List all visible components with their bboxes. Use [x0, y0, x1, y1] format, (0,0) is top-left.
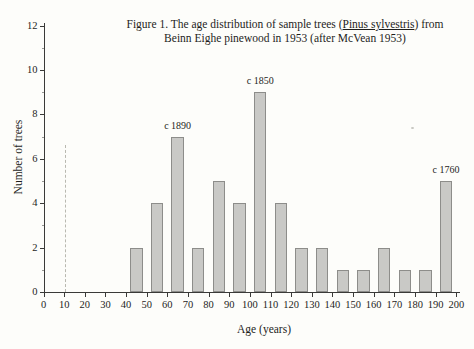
x-axis-tick: [126, 293, 127, 297]
figure-1-age-distribution-chart: Figure 1. The age distribution of sample…: [0, 0, 474, 349]
x-axis-tick: [332, 293, 333, 297]
x-axis-tick: [394, 293, 395, 297]
bar-annotation: c 1850: [232, 75, 288, 87]
bar-age-125: [295, 248, 307, 292]
bar-age-95: [233, 203, 245, 292]
chart-title-line1-prefix: Figure 1. The age distribution of sample…: [127, 18, 343, 30]
x-axis-tick: [250, 293, 251, 297]
scan-artifact-speck: [411, 127, 414, 129]
bar-age-65: [171, 137, 183, 292]
chart-title-line2: Beinn Eighe pinewood in 1953 (after McVe…: [164, 32, 406, 44]
bar-age-175: [399, 270, 411, 292]
y-axis-tick-label: 8: [17, 108, 38, 120]
bar-annotation: c 1890: [150, 120, 206, 132]
x-axis-title: Age (years): [194, 323, 334, 335]
y-axis-tick-label: 12: [17, 20, 38, 32]
x-axis-tick: [64, 293, 65, 297]
bar-age-85: [213, 181, 225, 292]
y-axis-tick: [40, 70, 44, 71]
y-axis-tick: [40, 203, 44, 204]
x-axis-tick: [353, 293, 354, 297]
y-axis-tick: [40, 114, 44, 115]
bar-age-185: [419, 270, 431, 292]
bar-age-115: [275, 203, 287, 292]
y-axis-minor-tick: [42, 181, 44, 182]
x-axis-tick: [105, 293, 106, 297]
x-axis-tick: [291, 293, 292, 297]
y-axis-tick-label: 0: [17, 286, 38, 298]
bar-age-145: [337, 270, 349, 292]
bar-age-45: [130, 248, 142, 292]
y-axis-minor-tick: [42, 137, 44, 138]
bar-age-165: [378, 248, 390, 292]
bar-age-55: [151, 203, 163, 292]
x-axis-tick: [147, 293, 148, 297]
bar-age-105: [254, 92, 266, 292]
reference-line-age-10: [65, 145, 66, 292]
y-axis-minor-tick: [42, 92, 44, 93]
bar-age-195: [440, 181, 452, 292]
y-axis-tick-label: 10: [17, 64, 38, 76]
chart-title-line1-suffix: ) from: [414, 18, 443, 30]
y-axis-tick: [40, 159, 44, 160]
y-axis-tick-label: 2: [17, 242, 38, 254]
bar-annotation: c 1760: [418, 164, 474, 176]
y-axis-minor-tick: [42, 225, 44, 226]
x-axis-tick-label: 200: [443, 299, 469, 311]
x-axis-tick: [44, 293, 45, 297]
x-axis-tick: [436, 293, 437, 297]
x-axis-tick: [85, 293, 86, 297]
x-axis-tick: [374, 293, 375, 297]
chart-title: Figure 1. The age distribution of sample…: [110, 17, 460, 45]
y-axis-line: [44, 23, 45, 293]
y-axis-minor-tick: [42, 48, 44, 49]
x-axis-tick: [167, 293, 168, 297]
bar-age-75: [192, 248, 204, 292]
x-axis-tick: [456, 293, 457, 297]
y-axis-tick: [40, 26, 44, 27]
y-axis-tick-label: 6: [17, 153, 38, 165]
x-axis-tick: [312, 293, 313, 297]
bar-age-135: [316, 248, 328, 292]
x-axis-tick: [229, 293, 230, 297]
y-axis-tick: [40, 248, 44, 249]
chart-title-species: Pinus sylvestris: [343, 18, 415, 30]
x-axis-tick: [188, 293, 189, 297]
x-axis-tick: [271, 293, 272, 297]
bar-age-155: [357, 270, 369, 292]
y-axis-minor-tick: [42, 270, 44, 271]
x-axis-tick: [415, 293, 416, 297]
x-axis-tick: [209, 293, 210, 297]
y-axis-tick-label: 4: [17, 197, 38, 209]
